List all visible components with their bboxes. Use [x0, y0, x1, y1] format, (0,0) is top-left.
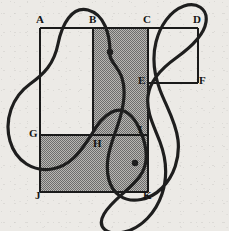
vertex-label-h: H — [93, 138, 102, 149]
vertex-label-g: G — [29, 128, 38, 139]
vertex-label-b: B — [89, 14, 96, 25]
geometry-figure: ABCDEFGHIJK — [0, 0, 229, 231]
vertex-label-d: D — [193, 14, 201, 25]
vertex-label-f: F — [199, 75, 206, 86]
vertex-label-a: A — [36, 14, 44, 25]
vertex-label-c: C — [143, 14, 151, 25]
curve-endpoint-upper — [107, 49, 113, 55]
vertex-label-e: E — [138, 75, 145, 86]
vertex-label-j: J — [35, 190, 41, 201]
vertex-label-i: I — [138, 124, 142, 135]
curve-endpoint-lower — [132, 160, 138, 166]
vertex-label-k: K — [143, 190, 152, 201]
